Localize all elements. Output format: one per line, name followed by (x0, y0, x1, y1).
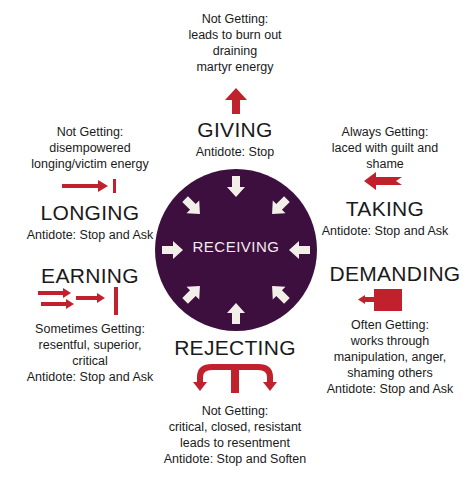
arrow-up-icon (224, 88, 248, 114)
taking-label: TAKING Antidote: Stop and Ask (310, 197, 460, 239)
giving-desc-line: leads to burn out (160, 27, 310, 43)
taking-desc-line: shame (315, 156, 455, 172)
giving-description: Not Getting: leads to burn out draining … (160, 11, 310, 75)
demanding-desc-line: shaming others (315, 365, 465, 381)
rejecting-desc-line: leads to resentment (145, 435, 325, 451)
multiple-arrows-to-bar-icon (38, 287, 122, 315)
rejecting-title: REJECTING (160, 336, 310, 360)
giving-antidote: Antidote: Stop (160, 144, 310, 160)
block-arrow-left-icon (358, 289, 402, 311)
arrow-left-notched-icon (364, 172, 402, 190)
longing-desc-line: Not Getting: (10, 124, 170, 140)
earning-desc-line: Sometimes Getting: (5, 321, 175, 337)
demanding-desc-line: Often Getting: (315, 317, 465, 333)
arrow-right-to-bar-icon (62, 179, 120, 193)
longing-label: LONGING Antidote: Stop and Ask (10, 201, 170, 243)
taking-desc-line: laced with guilt and (315, 140, 455, 156)
demanding-antidote: Antidote: Stop and Ask (315, 381, 465, 397)
longing-title: LONGING (10, 201, 170, 225)
earning-antidote: Antidote: Stop and Ask (5, 369, 175, 385)
giving-desc-line: martyr energy (160, 59, 310, 75)
taking-title: TAKING (310, 197, 460, 221)
demanding-desc-line: manipulation, anger, (315, 349, 465, 365)
giving-section: Not Getting: leads to burn out draining … (160, 11, 310, 75)
taking-antidote: Antidote: Stop and Ask (310, 223, 460, 239)
rejecting-description: Not Getting: critical, closed, resistant… (145, 403, 325, 467)
rejecting-desc-line: critical, closed, resistant (145, 419, 325, 435)
earning-label: EARNING (10, 264, 170, 288)
earning-description: Sometimes Getting: resentful, superior, … (5, 321, 175, 385)
earning-title: EARNING (10, 264, 170, 288)
earning-desc-line: critical (5, 353, 175, 369)
giving-label: GIVING Antidote: Stop (160, 118, 310, 160)
split-arrow-down-icon (192, 363, 278, 393)
taking-description: Always Getting: laced with guilt and sha… (315, 124, 455, 172)
demanding-label: DEMANDING (320, 262, 470, 286)
giving-desc-line: Not Getting: (160, 11, 310, 27)
demanding-title: DEMANDING (320, 262, 470, 286)
rejecting-antidote: Antidote: Stop and Soften (145, 451, 325, 467)
demanding-description: Often Getting: works through manipulatio… (315, 317, 465, 397)
rejecting-label: REJECTING (160, 336, 310, 360)
giving-desc-line: draining (160, 43, 310, 59)
earning-desc-line: resentful, superior, (5, 337, 175, 353)
giving-title: GIVING (160, 118, 310, 142)
longing-description: Not Getting: disempowered longing/victim… (10, 124, 170, 172)
rejecting-desc-line: Not Getting: (145, 403, 325, 419)
receiving-label: RECEIVING (155, 238, 317, 255)
longing-antidote: Antidote: Stop and Ask (10, 227, 170, 243)
longing-desc-line: longing/victim energy (10, 156, 170, 172)
taking-desc-line: Always Getting: (315, 124, 455, 140)
longing-desc-line: disempowered (10, 140, 170, 156)
demanding-desc-line: works through (315, 333, 465, 349)
